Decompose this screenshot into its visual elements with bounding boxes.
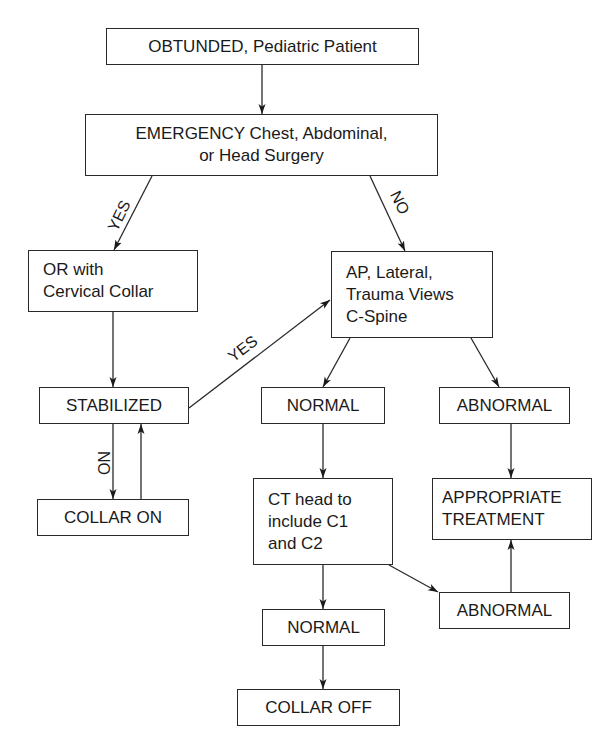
node-ct-head-line3: and C2 (268, 533, 323, 555)
node-or-collar-line1: OR with (43, 259, 103, 281)
node-collar-off-text: COLLAR OFF (265, 697, 372, 719)
node-ct-head-line1: CT head to (268, 489, 352, 511)
c-spine-clearance-flowchart: YES NO YES NO OBTUNDED, Pediatric Patien… (0, 0, 610, 747)
node-appropriate-treatment: APPROPRIATE TREATMENT (432, 478, 592, 540)
node-normal-2: NORMAL (262, 609, 385, 646)
node-emergency-surgery-line2: or Head Surgery (199, 145, 324, 167)
node-emergency-surgery-line1: EMERGENCY Chest, Abdominal, (136, 123, 388, 145)
arrow-xray-to-normal (323, 338, 350, 387)
node-xray-views: AP, Lateral, Trauma Views C-Spine (331, 251, 493, 338)
node-abnormal-2: ABNORMAL (439, 592, 570, 629)
node-xray-views-line3: C-Spine (346, 306, 407, 328)
node-ct-head: CT head to include C1 and C2 (253, 478, 393, 565)
edge-label-surgery-yes: YES (104, 197, 133, 233)
node-abnormal-1-text: ABNORMAL (457, 395, 552, 417)
edge-label-surgery-no: NO (387, 188, 413, 217)
node-or-collar-line2: Cervical Collar (43, 281, 154, 303)
node-xray-views-line2: Trauma Views (346, 284, 454, 306)
edge-label-stabilized-yes: YES (225, 332, 261, 365)
node-emergency-surgery: EMERGENCY Chest, Abdominal, or Head Surg… (85, 114, 438, 176)
node-normal-1-text: NORMAL (287, 395, 360, 417)
arrow-xray-to-abnormal (471, 338, 499, 387)
node-stabilized-text: STABILIZED (66, 395, 162, 417)
node-appropriate-treatment-line2: TREATMENT (442, 509, 545, 531)
node-abnormal-1: ABNORMAL (439, 387, 570, 424)
node-stabilized: STABILIZED (39, 387, 189, 424)
node-start: OBTUNDED, Pediatric Patient (106, 28, 419, 65)
node-collar-on: COLLAR ON (37, 499, 189, 536)
edge-label-stabilized-no: NO (95, 451, 112, 475)
node-collar-on-text: COLLAR ON (64, 507, 162, 529)
node-abnormal-2-text: ABNORMAL (457, 600, 552, 622)
node-xray-views-line1: AP, Lateral, (346, 262, 433, 284)
node-start-text: OBTUNDED, Pediatric Patient (148, 36, 377, 58)
node-or-collar: OR with Cervical Collar (28, 250, 198, 312)
node-normal-1: NORMAL (261, 387, 385, 424)
node-collar-off: COLLAR OFF (237, 689, 400, 726)
node-ct-head-line2: include C1 (268, 511, 348, 533)
node-normal-2-text: NORMAL (287, 617, 360, 639)
node-appropriate-treatment-line1: APPROPRIATE (442, 487, 562, 509)
arrow-ct-to-abnormal (389, 565, 438, 592)
